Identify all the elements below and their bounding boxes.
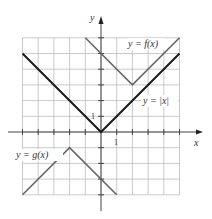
graph: y x 1 1 y = f(x) y = |x| y = g(x) — [0, 0, 212, 219]
f-label: y = f(x) — [127, 38, 159, 50]
x-tick-label: 1 — [114, 138, 118, 147]
axes — [8, 16, 203, 211]
y-axis-label: y — [89, 12, 95, 23]
x-axis-label: x — [193, 137, 199, 148]
y-tick-label: 1 — [91, 112, 95, 121]
g-label: y = g(x) — [15, 149, 49, 161]
abs-label: y = |x| — [142, 95, 169, 106]
